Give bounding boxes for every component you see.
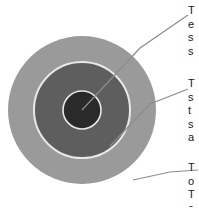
callout-bottom-line: o [188,175,199,189]
callout-top-line: s [188,31,199,45]
callout-bottom-line: T [188,188,199,202]
callout-top: T e s s [188,4,199,58]
callout-middle-line: a [188,131,199,145]
callout-top-line: s [188,45,199,59]
concentric-circle-diagram [0,0,199,207]
callout-bottom-line: T [188,161,199,175]
callout-top-line: e [188,18,199,32]
callout-top-line: T [188,4,199,18]
diagram-canvas: T e s s T s t s a T o T c [0,0,199,207]
callout-middle-line: T [188,77,199,91]
callout-middle-line: t [188,104,199,118]
callout-middle-line: s [188,118,199,132]
callout-bottom: T o T c [188,161,199,207]
callout-middle-line: s [188,91,199,105]
callout-middle: T s t s a [188,77,199,145]
callout-bottom-line: c [188,202,199,208]
